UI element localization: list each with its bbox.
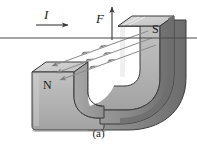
south-pole-label: S: [152, 23, 159, 35]
field-line-1: [52, 31, 148, 66]
figure-container: I F N S (a): [0, 0, 197, 144]
north-pole-label: N: [43, 79, 52, 91]
horseshoe-magnet: [32, 16, 186, 132]
figure-caption: (a): [0, 128, 197, 139]
s-pole-front-sheen: [120, 27, 125, 77]
n-pole-front-sheen: [34, 74, 39, 126]
force-label: F: [96, 12, 104, 25]
current-label: I: [44, 8, 48, 21]
